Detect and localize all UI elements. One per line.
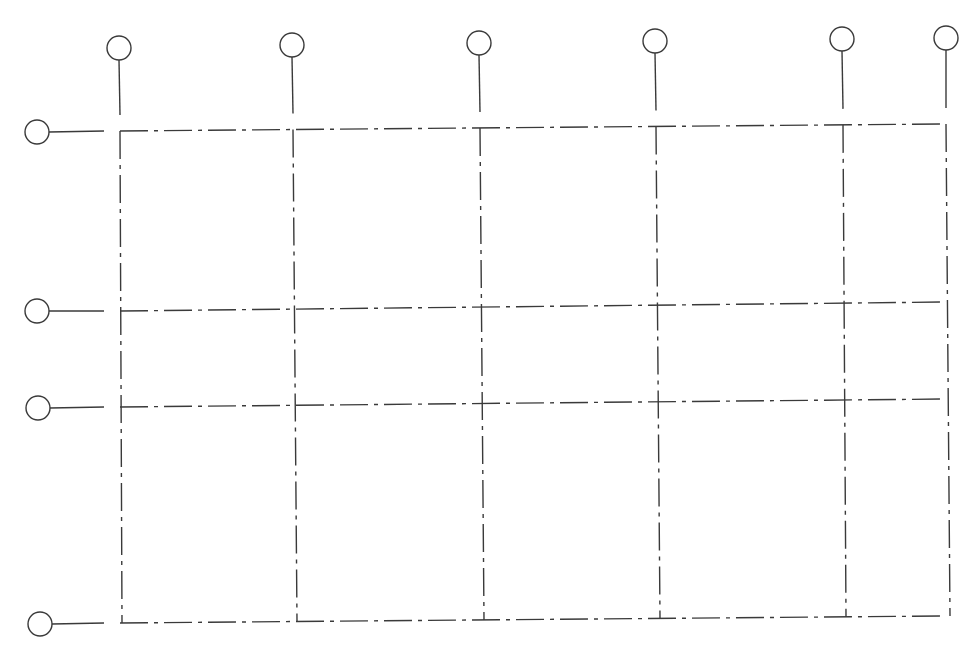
axis-bubble-v1	[107, 36, 131, 60]
horizontal-axis-line-1	[120, 124, 946, 131]
horizontal-axis-line-4	[120, 616, 946, 623]
horizontal-axis-bubbles	[25, 120, 104, 636]
axis-bubble-h2	[25, 299, 49, 323]
axis-bubble-circle-icon	[25, 120, 49, 144]
axis-bubble-circle-icon	[830, 27, 854, 51]
vertical-axis-line-5	[843, 125, 846, 617]
vertical-axis-line-1	[120, 131, 122, 623]
vertical-axis-line-2	[293, 130, 297, 622]
vertical-axis-leader-1	[119, 60, 120, 115]
axis-bubble-circle-icon	[280, 33, 304, 57]
horizontal-axis-leader-4	[52, 623, 104, 624]
axis-bubble-circle-icon	[28, 612, 52, 636]
axis-bubble-v3	[467, 31, 491, 55]
axis-bubble-circle-icon	[25, 299, 49, 323]
vertical-axis-bubbles	[107, 26, 958, 115]
horizontal-axis-line-2	[120, 302, 946, 311]
vertical-axis-leader-3	[479, 55, 480, 112]
axis-bubble-circle-icon	[26, 396, 50, 420]
axis-grid-diagram	[0, 0, 972, 655]
axis-bubble-v5	[830, 27, 854, 51]
horizontal-axis-leader-3	[50, 407, 104, 408]
vertical-axis-leader-5	[842, 51, 843, 109]
horizontal-axis-line-3	[120, 399, 946, 407]
horizontal-axis-leader-1	[49, 131, 104, 132]
vertical-axis-leader-2	[292, 57, 293, 114]
axis-bubble-h4	[28, 612, 52, 636]
axis-bubble-v2	[280, 33, 304, 57]
axis-bubble-circle-icon	[934, 26, 958, 50]
vertical-grid-lines	[120, 124, 950, 623]
axis-bubble-v4	[643, 29, 667, 53]
axis-bubble-circle-icon	[107, 36, 131, 60]
axis-bubble-v6	[934, 26, 958, 50]
axis-bubble-circle-icon	[467, 31, 491, 55]
axis-bubble-circle-icon	[643, 29, 667, 53]
axis-bubble-h1	[25, 120, 49, 144]
axis-bubble-h3	[26, 396, 50, 420]
horizontal-grid-lines	[120, 124, 946, 623]
vertical-axis-line-4	[656, 126, 660, 618]
vertical-axis-line-6	[946, 124, 950, 616]
vertical-axis-leader-4	[655, 53, 656, 110]
vertical-axis-line-3	[480, 128, 484, 620]
